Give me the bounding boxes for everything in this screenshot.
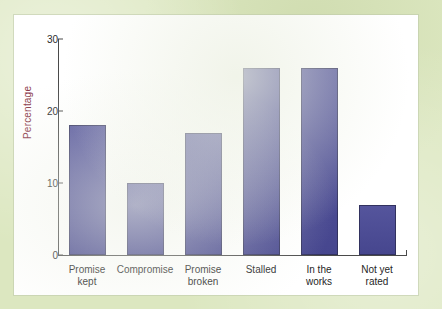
- x-axis-category-label: Not yet rated: [348, 264, 406, 288]
- y-axis-ticks: 0102030: [34, 15, 58, 295]
- figure-mat: Percentage 0102030 Promise keptCompromis…: [0, 0, 442, 309]
- y-axis-title: Percentage: [22, 39, 33, 139]
- x-axis-category-label: Stalled: [232, 264, 290, 276]
- x-axis-category-label: Compromise: [116, 264, 174, 276]
- bar: [127, 183, 164, 255]
- bar-chart: Percentage 0102030 Promise keptCompromis…: [14, 15, 418, 295]
- y-axis-tick-label: 10: [36, 178, 58, 189]
- bar: [301, 68, 338, 255]
- bar: [243, 68, 280, 255]
- bar: [69, 125, 106, 255]
- bar: [359, 205, 396, 255]
- chart-card: Percentage 0102030 Promise keptCompromis…: [14, 15, 418, 295]
- x-axis-category-label: In the works: [290, 264, 348, 288]
- x-axis-line: [58, 255, 406, 256]
- y-axis-tick-label: 30: [36, 34, 58, 45]
- x-axis-category-label: Promise broken: [174, 264, 232, 288]
- bar: [185, 133, 222, 255]
- y-axis-tick-label: 20: [36, 106, 58, 117]
- x-axis-end-cap: [406, 250, 407, 256]
- x-axis-category-label: Promise kept: [58, 264, 116, 288]
- y-axis-tick-label: 0: [36, 250, 58, 261]
- y-axis-line: [58, 39, 59, 255]
